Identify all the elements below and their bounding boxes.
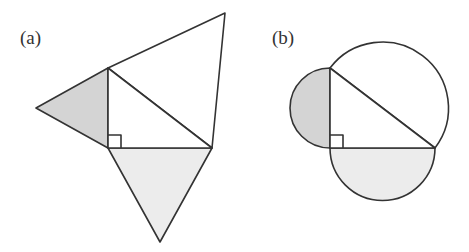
panel-a: (a) bbox=[20, 13, 225, 242]
panel-b: (b) bbox=[272, 27, 448, 200]
panel-b-label: (b) bbox=[272, 27, 294, 49]
bottom-leg-semicircle-b bbox=[330, 148, 435, 200]
left-leg-semicircle-b bbox=[290, 68, 330, 148]
bottom-leg-triangle-a bbox=[108, 148, 212, 242]
panel-a-label: (a) bbox=[20, 27, 41, 49]
left-leg-triangle-a bbox=[36, 68, 108, 148]
figure-canvas: (a) (b) bbox=[0, 0, 469, 252]
